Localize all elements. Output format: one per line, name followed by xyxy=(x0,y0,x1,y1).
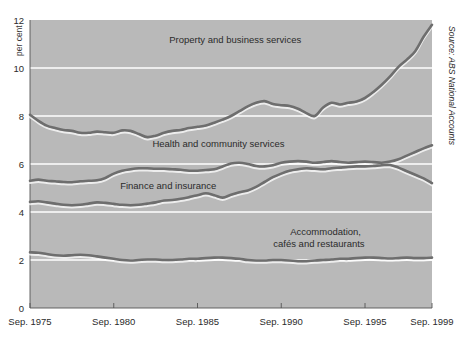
y-tick-label: 2 xyxy=(19,255,24,266)
x-tick-label: Sep. 1980 xyxy=(92,316,135,327)
x-tick-label: Sep. 1999 xyxy=(410,316,453,327)
series-annotation-0: Property and business services xyxy=(169,34,301,45)
y-tick-label: 6 xyxy=(19,159,24,170)
series-annotation-1: Health and community services xyxy=(152,138,284,149)
x-tick-label: Sep. 1995 xyxy=(343,316,386,327)
series-annotation-2: Finance and insurance xyxy=(120,180,216,191)
chart-figure: 024681012 Sep. 1975Sep. 1980Sep. 1985Sep… xyxy=(0,0,461,347)
y-tick-label: 0 xyxy=(19,303,24,314)
y-tick-label: 10 xyxy=(13,63,24,74)
y-tick-label: 12 xyxy=(13,15,24,26)
y-tick-label: 4 xyxy=(19,207,24,218)
x-tick-label: Sep. 1975 xyxy=(8,316,51,327)
series-annotation-4: cafés and restaurants xyxy=(273,238,365,249)
x-tick-label: Sep. 1990 xyxy=(260,316,303,327)
y-axis-unit-label: per cent xyxy=(14,25,24,56)
y-tick-label: 8 xyxy=(19,111,24,122)
series-annotation-3: Accommodation, xyxy=(290,226,361,237)
source-note: Source: ABS National Accounts xyxy=(447,26,457,146)
x-tick-label: Sep. 1985 xyxy=(176,316,219,327)
